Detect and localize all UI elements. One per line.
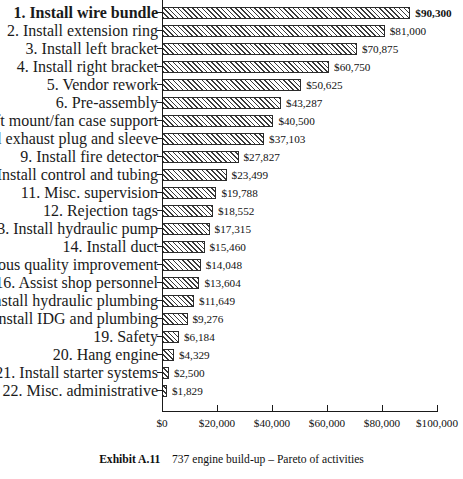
category-label-text: Install aft mount/fan case support — [0, 112, 158, 130]
bar-value-label: $90,300 — [415, 4, 451, 22]
bar-value-label: $14,048 — [206, 256, 242, 274]
bar-value-label: $1,829 — [172, 382, 203, 400]
bar-row: 6. Pre-assembly$43,287 — [0, 94, 463, 112]
category-label: 6. Pre-assembly — [0, 94, 158, 112]
bar-row: 20. Hang engine$4,329 — [0, 346, 463, 364]
bar — [162, 169, 227, 181]
bar — [162, 241, 205, 253]
category-label-text: . Continuous quality improvement — [0, 256, 158, 274]
figure-caption: Exhibit A.11 737 engine build-up – Paret… — [0, 452, 463, 468]
bar-row: 10. Install control and tubing$23,499 — [0, 166, 463, 184]
x-axis-tick — [217, 405, 218, 412]
bar-row: 1. Install wire bundle$90,300 — [0, 4, 463, 22]
caption-label: Exhibit A.11 — [99, 453, 160, 466]
category-label-text: 11. Misc. supervision — [21, 184, 158, 202]
x-axis-tick — [162, 405, 163, 412]
bar — [162, 97, 281, 109]
bar-value-label: $43,287 — [286, 94, 322, 112]
category-label: 3. Install left bracket — [0, 40, 158, 58]
category-label: 1. Install wire bundle — [0, 4, 158, 22]
category-label-text: 21. Install starter systems — [0, 364, 158, 382]
bar-value-label: $81,000 — [390, 22, 426, 40]
category-label: 4. Install right bracket — [0, 58, 158, 76]
bar-row: 4. Install right bracket$60,750 — [0, 58, 463, 76]
category-label: 16. Assist shop personnel — [0, 274, 158, 292]
bar-row: 17. Install hydraulic plumbing$11,649 — [0, 292, 463, 310]
x-axis-tick — [327, 405, 328, 412]
category-label: 12. Rejection tags — [0, 202, 158, 220]
bar-value-label: $60,750 — [334, 58, 370, 76]
x-axis-tick — [382, 405, 383, 412]
category-label: 18. Install IDG and plumbing — [0, 310, 158, 328]
category-label-text: 5. Vendor rework — [47, 76, 158, 94]
bar-value-label: $23,499 — [232, 166, 268, 184]
category-label-text: 14. Install duct — [62, 238, 158, 256]
bar-row: 2. Install extension ring$81,000 — [0, 22, 463, 40]
bar-row: 19. Safety$6,184 — [0, 328, 463, 346]
bar — [162, 79, 301, 91]
category-label: 21. Install starter systems — [0, 364, 158, 382]
category-label-text: 9. Install fire detector — [20, 148, 158, 166]
category-label-text: 1. Install wire bundle — [13, 4, 158, 22]
category-label: 13. Install hydraulic pump — [0, 220, 158, 238]
x-axis-tick — [437, 405, 438, 412]
bar-value-label: $6,184 — [184, 328, 215, 346]
category-label: 20. Hang engine — [0, 346, 158, 364]
y-axis-line — [162, 0, 163, 412]
category-label: 9. Install fire detector — [0, 148, 158, 166]
bar-row: 18. Install IDG and plumbing$9,276 — [0, 310, 463, 328]
pareto-chart: 1. Install wire bundle$90,3002. Install … — [0, 0, 463, 479]
category-label: . Continuous quality improvement — [0, 256, 158, 274]
bar — [162, 277, 199, 289]
bar-value-label: $18,552 — [218, 202, 254, 220]
bar — [162, 115, 273, 127]
bar-value-label: $2,500 — [174, 364, 205, 382]
x-axis-line — [162, 411, 438, 412]
caption-text: 737 engine build-up – Pareto of activiti… — [172, 453, 364, 466]
category-label: 5. Vendor rework — [0, 76, 158, 94]
bar — [162, 313, 188, 325]
bar — [162, 187, 216, 199]
plot-area: 1. Install wire bundle$90,3002. Install … — [0, 0, 463, 412]
bar — [162, 295, 194, 307]
bar-value-label: $70,875 — [362, 40, 398, 58]
category-label: Install aft mount/fan case support — [0, 112, 158, 130]
category-label-text: 20. Hang engine — [53, 346, 158, 364]
x-axis-tick — [272, 405, 273, 412]
bar-row: 14. Install duct$15,460 — [0, 238, 463, 256]
category-label-text: 19. Safety — [93, 328, 158, 346]
bar — [162, 151, 239, 163]
category-label-text: 13. Install hydraulic pump — [0, 220, 158, 238]
bar-value-label: $50,625 — [306, 76, 342, 94]
category-label-text: 3. Install exhaust plug and sleeve — [0, 130, 158, 148]
bar-value-label: $15,460 — [210, 238, 246, 256]
bar-row: 12. Rejection tags$18,552 — [0, 202, 463, 220]
category-label: 2. Install extension ring — [0, 22, 158, 40]
bar-row: Install aft mount/fan case support$40,50… — [0, 112, 463, 130]
bar-value-label: $11,649 — [199, 292, 235, 310]
category-label-text: 17. Install hydraulic plumbing — [0, 292, 158, 310]
bar — [162, 223, 210, 235]
category-label-text: 2. Install extension ring — [7, 22, 158, 40]
bar-value-label: $27,827 — [244, 148, 280, 166]
bar-value-label: $4,329 — [179, 346, 210, 364]
bar-value-label: $19,788 — [221, 184, 257, 202]
category-label: 19. Safety — [0, 328, 158, 346]
bar-value-label: $17,315 — [215, 220, 251, 238]
category-label-text: 6. Pre-assembly — [56, 94, 158, 112]
bar-value-label: $37,103 — [269, 130, 305, 148]
bar-row: 16. Assist shop personnel$13,604 — [0, 274, 463, 292]
bar — [162, 61, 329, 73]
bar — [162, 25, 385, 37]
category-label: 17. Install hydraulic plumbing — [0, 292, 158, 310]
bar-row: 3. Install exhaust plug and sleeve$37,10… — [0, 130, 463, 148]
bar — [162, 43, 357, 55]
bar-row: 9. Install fire detector$27,827 — [0, 148, 463, 166]
category-label-text: 18. Install IDG and plumbing — [0, 310, 158, 328]
x-axis-tick-label: $100,000 — [397, 415, 463, 431]
category-label: 11. Misc. supervision — [0, 184, 158, 202]
bar-row: 11. Misc. supervision$19,788 — [0, 184, 463, 202]
category-label-text: 3. Install left bracket — [26, 40, 158, 58]
bar-row: 22. Misc. administrative$1,829 — [0, 382, 463, 400]
bar — [162, 7, 410, 19]
